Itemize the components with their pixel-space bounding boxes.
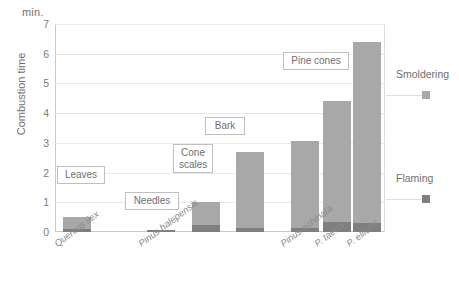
bar-segment-flaming	[236, 228, 264, 232]
legend-leader-line	[386, 199, 422, 200]
gridline	[55, 24, 385, 25]
legend-swatch	[422, 91, 430, 99]
bar[interactable]	[236, 152, 264, 232]
bar[interactable]	[353, 42, 381, 232]
annotation-callout: Needles	[125, 192, 179, 210]
annotation-callout: Leaves	[57, 166, 105, 184]
y-axis-tick-label: 3	[43, 137, 49, 149]
y-axis-tick-label: 4	[43, 107, 49, 119]
bar-segment-flaming	[192, 225, 220, 232]
annotation-callout: Cone scales	[173, 144, 213, 173]
y-axis-tick-label: 0	[43, 226, 49, 238]
y-axis-tick-label: 7	[43, 18, 49, 30]
combustion-time-chart: min. Combustion time 01234567 LeavesNeed…	[0, 0, 459, 305]
bar-segment-smoldering	[236, 152, 264, 228]
y-axis-tick-label: 2	[43, 167, 49, 179]
plot-area: 01234567 LeavesNeedlesCone scalesBarkPin…	[55, 24, 385, 232]
legend-label[interactable]: Flaming	[396, 172, 433, 184]
y-axis-tick-label: 6	[43, 48, 49, 60]
legend-leader-line	[386, 95, 422, 96]
legend-swatch	[422, 195, 430, 203]
y-axis-tick-label: 1	[43, 196, 49, 208]
y-axis-tick-label: 5	[43, 77, 49, 89]
bar-segment-smoldering	[353, 42, 381, 223]
gridline	[55, 83, 385, 84]
annotation-callout: Pine cones	[283, 52, 349, 70]
y-axis-title: Combustion time	[15, 29, 27, 159]
y-axis-unit-label: min.	[22, 6, 44, 18]
annotation-callout: Bark	[205, 117, 245, 135]
legend-label[interactable]: Smoldering	[396, 68, 449, 80]
